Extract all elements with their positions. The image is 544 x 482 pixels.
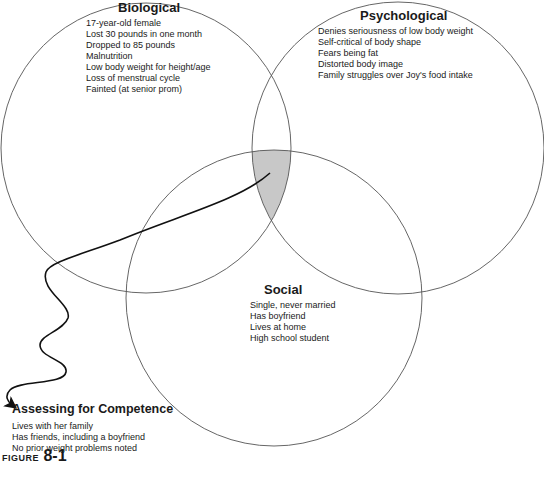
list-item: Self-critical of body shape: [318, 37, 518, 48]
list-item: Lives with her family: [12, 421, 232, 432]
list-item: Denies seriousness of low body weight: [318, 26, 518, 37]
figure-word: FIGURE: [2, 453, 39, 463]
biological-section: Biological 17-year-old female Lost 30 po…: [86, 0, 256, 95]
list-item: Malnutrition: [86, 51, 256, 62]
figure-label: FIGURE 8-1: [2, 447, 67, 465]
psychological-list: Denies seriousness of low body weight Se…: [318, 26, 518, 81]
list-item: Loss of menstrual cycle: [86, 73, 256, 84]
list-item: Fears being fat: [318, 48, 518, 59]
psychological-title: Psychological: [318, 8, 518, 24]
psychological-section: Psychological Denies seriousness of low …: [318, 8, 518, 81]
list-item: Dropped to 85 pounds: [86, 40, 256, 51]
social-section: Social Single, never married Has boyfrie…: [250, 282, 390, 344]
list-item: Single, never married: [250, 300, 390, 311]
social-title: Social: [250, 282, 390, 298]
biological-title: Biological: [86, 0, 256, 16]
list-item: Family struggles over Joy's food intake: [318, 70, 518, 81]
list-item: Has friends, including a boyfriend: [12, 432, 232, 443]
list-item: Lost 30 pounds in one month: [86, 29, 256, 40]
biological-list: 17-year-old female Lost 30 pounds in one…: [86, 18, 256, 95]
competence-title: Assessing for Competence: [12, 401, 232, 417]
connector-arrow: [7, 173, 270, 405]
social-list: Single, never married Has boyfriend Live…: [250, 300, 390, 344]
list-item: Distorted body image: [318, 59, 518, 70]
list-item: Fainted (at senior prom): [86, 84, 256, 95]
list-item: Low body weight for height/age: [86, 62, 256, 73]
list-item: High school student: [250, 333, 390, 344]
list-item: Lives at home: [250, 322, 390, 333]
list-item: 17-year-old female: [86, 18, 256, 29]
figure-number: 8-1: [43, 447, 66, 464]
list-item: Has boyfriend: [250, 311, 390, 322]
